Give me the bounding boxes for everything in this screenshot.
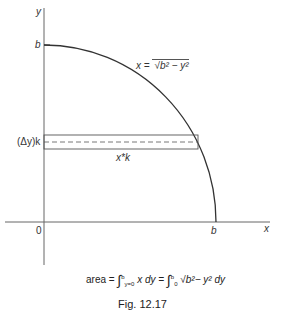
y-axis-label: y	[36, 7, 41, 17]
quarter-circle-curve	[44, 45, 216, 222]
int2-upper: b	[171, 274, 174, 280]
origin-label: 0	[36, 226, 42, 236]
x-intercept-label: b	[211, 226, 217, 236]
int1-body: x dy =	[137, 274, 164, 285]
figure-caption: Fig. 12.17	[0, 298, 285, 310]
integral-sign-1: ∫	[117, 272, 121, 288]
strip-height-label: (Δy)k	[17, 137, 40, 147]
integral-sign-2: ∫	[167, 272, 171, 288]
area-formula: area = ∫by=0 x dy = ∫b0 √b²− y² dy	[86, 270, 225, 287]
y-intercept-label: b	[35, 40, 41, 50]
int1-upper: b	[121, 274, 124, 280]
curve-equation-lhs: x =	[136, 60, 150, 71]
strip-x-label: x*k	[116, 153, 130, 163]
int1-lower: y=0	[125, 281, 135, 287]
curve-equation: x = √b² − y²	[136, 61, 189, 71]
curve-equation-rhs: √b² − y²	[152, 59, 188, 71]
int2-lower: 0	[174, 281, 177, 287]
x-axis-label: x	[264, 224, 269, 234]
formula-prefix: area =	[86, 274, 115, 285]
int2-body: √b²− y² dy	[180, 274, 225, 285]
